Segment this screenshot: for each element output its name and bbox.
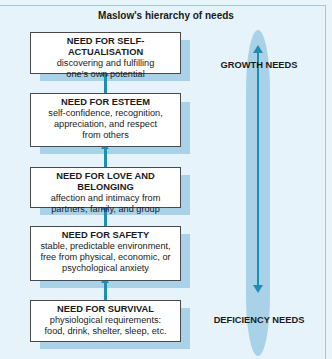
arrow-up-icon bbox=[253, 45, 263, 53]
arrow-down-icon bbox=[253, 285, 263, 293]
level-love-belonging: NEED FOR LOVE AND BELONGING affection an… bbox=[30, 167, 181, 208]
level-heading: NEED FOR LOVE AND BELONGING bbox=[31, 171, 180, 193]
level-description: one's own potential bbox=[31, 69, 180, 80]
level-description: appreciation, and respect bbox=[31, 119, 180, 130]
level-description: psychological anxiety bbox=[31, 263, 180, 274]
deficiency-needs-label: DEFICIENCY NEEDS bbox=[194, 315, 324, 325]
level-description: from others bbox=[31, 130, 180, 141]
up-arrow-connector bbox=[104, 281, 107, 300]
level-heading: NEED FOR SURVIVAL bbox=[31, 304, 180, 315]
level-description: partners, family, and group bbox=[31, 204, 180, 215]
level-description: free from physical, economic, or bbox=[31, 252, 180, 263]
level-description: affection and intimacy from bbox=[31, 193, 180, 204]
level-survival: NEED FOR SURVIVAL physiological requirem… bbox=[30, 300, 181, 342]
diagram-title: Maslow's hierarchy of needs bbox=[0, 10, 332, 21]
level-heading: NEED FOR SELF-ACTUALISATION bbox=[31, 36, 180, 58]
level-safety: NEED FOR SAFETY stable, predictable envi… bbox=[30, 226, 181, 281]
level-description: discovering and fulfilling bbox=[31, 58, 180, 69]
level-heading: NEED FOR SAFETY bbox=[31, 230, 180, 241]
level-description: food, drink, shelter, sleep, etc. bbox=[31, 326, 180, 337]
up-arrow-connector bbox=[104, 147, 107, 167]
level-description: stable, predictable environment, bbox=[31, 241, 180, 252]
level-heading: NEED FOR ESTEEM bbox=[31, 97, 180, 108]
level-self-actualisation: NEED FOR SELF-ACTUALISATION discovering … bbox=[30, 32, 181, 74]
level-description: self-confidence, recognition, bbox=[31, 108, 180, 119]
level-description: physiological requirements: bbox=[31, 315, 180, 326]
needs-axis-line bbox=[257, 48, 259, 290]
growth-needs-label: GROWTH NEEDS bbox=[194, 60, 324, 70]
level-esteem: NEED FOR ESTEEM self-confidence, recogni… bbox=[30, 93, 181, 147]
